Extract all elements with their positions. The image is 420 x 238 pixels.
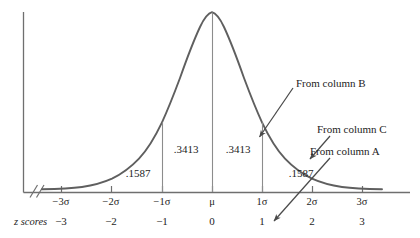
axis-tick-label-minus-1-sigma: −1σ [154, 197, 171, 208]
z-score-label-minus-3: −3 [55, 216, 67, 227]
z-score-label-2: 2 [309, 216, 315, 227]
axis-tick-label-mu: μ [209, 197, 215, 208]
callout-label-column-a: From column A [310, 146, 380, 157]
z-score-label-3: 3 [359, 216, 365, 227]
area-label-minus-two-to-minus-one-sigma: .1587 [126, 168, 151, 179]
z-score-label-0: 0 [209, 216, 215, 227]
callout-label-column-b: From column B [296, 78, 366, 89]
axis-break-mark [30, 185, 44, 198]
area-label-mean-to-one-sigma: .3413 [226, 144, 251, 155]
axis-tick-label-2-sigma: 2σ [307, 197, 318, 208]
z-score-label-minus-2: −2 [105, 216, 117, 227]
axis-tick-label-minus-2-sigma: −2σ [103, 197, 120, 208]
axis-tick-label-1-sigma: 1σ [257, 197, 268, 208]
callout-label-column-c: From column C [317, 124, 387, 135]
callout-arrow-column-b [260, 88, 294, 137]
z-score-label-1: 1 [259, 216, 265, 227]
normal-distribution-figure: −3σ −2σ −1σ μ 1σ 2σ 3σ z scores −3 −2 −1… [0, 0, 420, 238]
z-scores-row-title: z scores [14, 217, 47, 228]
axis-tick-label-minus-3-sigma: −3σ [53, 197, 70, 208]
axis-tick-label-3-sigma: 3σ [357, 197, 368, 208]
area-label-one-to-two-sigma: .1587 [289, 168, 314, 179]
area-label-minus-one-sigma-to-mean: .3413 [174, 144, 199, 155]
z-score-label-minus-1: −1 [156, 216, 168, 227]
